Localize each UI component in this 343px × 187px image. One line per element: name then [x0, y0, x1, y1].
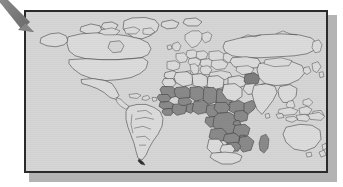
map-frame[interactable]: .ln { fill:#dcdcdc; stroke:#3a3a3a; stro… [24, 10, 328, 173]
map-canvas[interactable]: .ln { fill:#dcdcdc; stroke:#3a3a3a; stro… [26, 12, 326, 171]
figure-root: .ln { fill:#dcdcdc; stroke:#3a3a3a; stro… [0, 0, 343, 187]
world-map-graphic: .ln { fill:#dcdcdc; stroke:#3a3a3a; stro… [26, 12, 326, 171]
